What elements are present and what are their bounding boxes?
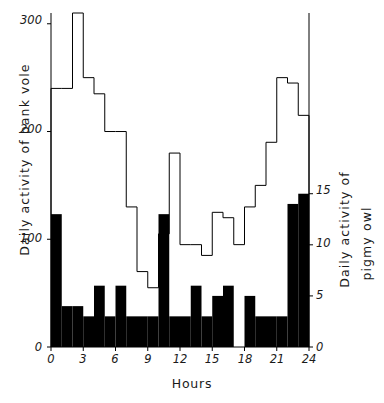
pigmy-owl-bar — [116, 286, 127, 347]
bank-vole-outline-path — [51, 13, 309, 347]
pigmy-owl-bar — [266, 316, 277, 347]
pigmy-owl-bar — [277, 316, 288, 347]
pigmy-owl-bar — [223, 286, 234, 347]
pigmy-owl-bar — [62, 306, 73, 347]
pigmy-owl-bar — [212, 296, 223, 347]
pigmy-owl-bar — [202, 316, 213, 347]
pigmy-owl-bar — [180, 316, 191, 347]
pigmy-owl-bar — [137, 316, 148, 347]
pigmy-owl-bar — [191, 286, 202, 347]
pigmy-owl-bar — [288, 204, 299, 347]
pigmy-owl-bar — [94, 286, 105, 347]
chart-figure: Daily activity of bank vole Daily activi… — [0, 0, 384, 403]
pigmy-owl-bar — [255, 316, 266, 347]
plot-area — [0, 0, 384, 403]
pigmy-owl-bar — [51, 214, 62, 347]
pigmy-owl-bar — [83, 316, 94, 347]
pigmy-owl-bar — [73, 306, 84, 347]
bank-vole-step-outline — [51, 13, 309, 347]
pigmy-owl-bar — [298, 194, 309, 347]
pigmy-owl-bar — [169, 316, 180, 347]
pigmy-owl-bar — [245, 296, 256, 347]
pigmy-owl-bar — [148, 316, 159, 347]
pigmy-owl-bar — [126, 316, 137, 347]
pigmy-owl-bar — [105, 316, 116, 347]
